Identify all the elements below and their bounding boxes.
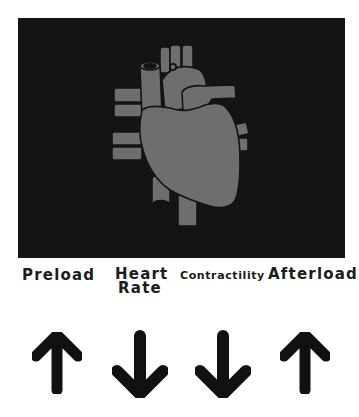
heart-icon <box>18 18 345 258</box>
heart-rate-label: Heart Rate <box>115 267 165 296</box>
heart-rate-label-line2: Rate <box>115 281 165 296</box>
contractility-label: Contractility <box>180 270 265 281</box>
preload-label: Preload <box>22 268 95 283</box>
arrow-up-icon <box>280 332 330 394</box>
arrow-down-icon <box>112 330 168 398</box>
afterload-label: Afterload <box>268 267 358 282</box>
arrow-up-icon <box>32 332 82 394</box>
heart-image-panel <box>18 18 345 258</box>
arrow-down-icon <box>195 330 251 398</box>
